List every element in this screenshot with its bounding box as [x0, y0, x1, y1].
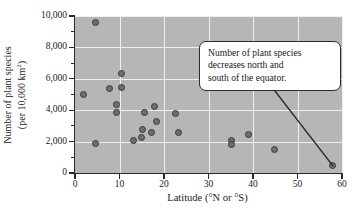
data-point	[228, 141, 235, 148]
callout-line-2: decreases north and	[208, 59, 333, 71]
data-point	[141, 109, 148, 116]
y-axis-tick-label: 2,000	[46, 137, 67, 147]
y-axis-tick	[69, 141, 75, 142]
plot-area: 02,0004,0006,0008,00010,000 010203040506…	[74, 16, 342, 174]
gridline-vertical	[209, 16, 210, 173]
gridline-vertical	[342, 16, 343, 173]
data-point	[151, 103, 158, 110]
x-axis-tick-label: 60	[337, 180, 347, 190]
y-axis-tick-label: 8,000	[46, 43, 67, 53]
y-axis-tick-label: 6,000	[46, 74, 67, 84]
x-axis-title: Latitude (°N or °S)	[74, 192, 341, 203]
data-point	[153, 118, 160, 125]
y-axis-minor-tick	[71, 94, 75, 95]
data-point	[329, 162, 336, 169]
data-point	[80, 91, 87, 98]
x-axis-tick-label: 20	[159, 180, 169, 190]
data-point	[148, 129, 155, 136]
y-axis-minor-tick	[71, 63, 75, 64]
y-axis-title-superscript: 2	[14, 64, 22, 68]
data-point	[245, 131, 252, 138]
x-axis-tick-label: 0	[73, 180, 78, 190]
y-axis-minor-tick	[71, 157, 75, 158]
gridline-vertical	[298, 16, 299, 173]
data-point	[92, 19, 99, 26]
y-axis-minor-tick	[71, 125, 75, 126]
y-axis-tick-label: 4,000	[46, 105, 67, 115]
data-point	[139, 126, 146, 133]
data-point	[118, 84, 125, 91]
data-point	[271, 146, 278, 153]
y-axis-tick-label: 0	[62, 168, 67, 178]
x-axis-tick-label: 30	[204, 180, 214, 190]
y-axis-tick	[69, 110, 75, 111]
data-point	[175, 129, 182, 136]
y-axis-title-line-2-suffix: )	[16, 61, 27, 64]
y-axis-tick	[69, 15, 75, 16]
data-point	[113, 109, 120, 116]
y-axis-title-line-1: Number of plant species	[2, 46, 13, 143]
y-axis-minor-tick	[71, 31, 75, 32]
data-point	[172, 110, 179, 117]
y-axis-title-line-2: (per 10,000 km2)	[14, 20, 28, 170]
x-axis-tick-label: 50	[293, 180, 303, 190]
x-axis-tick-label: 10	[115, 180, 125, 190]
y-axis-title: Number of plant species (per 10,000 km2)	[2, 20, 28, 170]
y-axis-title-line-2-prefix: (per 10,000 km	[16, 68, 27, 129]
data-point	[130, 137, 137, 144]
callout-annotation: Number of plant species decreases north …	[199, 41, 341, 91]
gridline-vertical	[253, 16, 254, 173]
data-point	[118, 70, 125, 77]
data-point	[138, 134, 145, 141]
y-axis-tick	[69, 78, 75, 79]
callout-line-1: Number of plant species	[208, 47, 333, 59]
y-axis-tick-label: 10,000	[41, 11, 67, 21]
callout-line-3: south of the equator.	[208, 72, 333, 84]
data-point	[92, 140, 99, 147]
gridline-vertical	[164, 16, 165, 173]
data-point	[106, 85, 113, 92]
y-axis-tick	[69, 47, 75, 48]
x-axis-tick-label: 40	[248, 180, 258, 190]
gridline-vertical	[120, 16, 121, 173]
scatter-plot-figure: Number of plant species (per 10,000 km2)…	[0, 0, 353, 220]
